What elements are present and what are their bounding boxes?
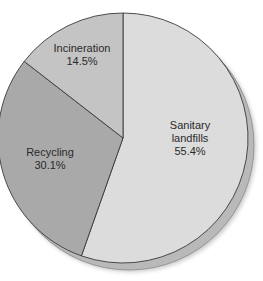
slice-label-sanitary-landfills: Sanitarylandfills55.4% bbox=[170, 119, 211, 157]
pie-chart: Sanitarylandfills55.4%Recycling30.1%Inci… bbox=[0, 0, 263, 281]
pie-slices bbox=[0, 13, 248, 263]
